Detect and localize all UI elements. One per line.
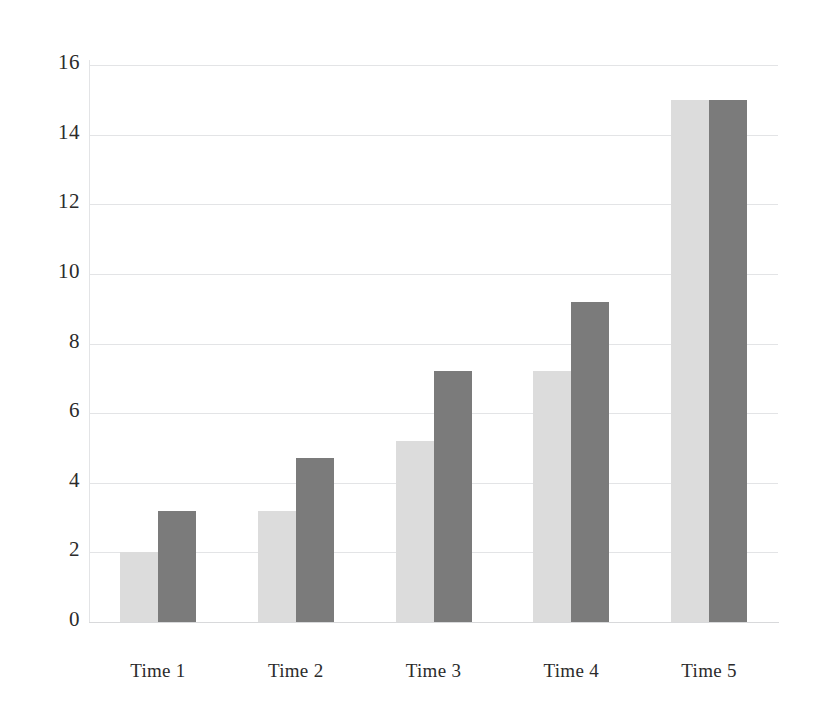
bar-group: [396, 60, 472, 622]
y-tick-label: 14: [8, 120, 80, 145]
y-axis-line: [89, 60, 90, 623]
y-tick-label: 0: [8, 607, 80, 632]
bar[interactable]: [396, 441, 434, 622]
bar-chart: 0246810121416 Time 1Time 2Time 3Time 4Ti…: [0, 0, 816, 718]
y-tick-label: 4: [8, 468, 80, 493]
y-tick-label: 6: [8, 398, 80, 423]
bar-group: [258, 60, 334, 622]
bar[interactable]: [533, 371, 571, 622]
bar[interactable]: [158, 511, 196, 622]
bar[interactable]: [671, 100, 709, 622]
bar[interactable]: [434, 371, 472, 622]
x-tick-label: Time 4: [502, 660, 640, 682]
y-tick-label: 2: [8, 537, 80, 562]
x-tick-label: Time 2: [227, 660, 365, 682]
bar[interactable]: [296, 458, 334, 622]
bar[interactable]: [120, 552, 158, 622]
bar-group: [671, 60, 747, 622]
y-tick-label: 8: [8, 329, 80, 354]
plot-area: [89, 60, 778, 622]
x-tick-label: Time 1: [89, 660, 227, 682]
y-tick-label: 10: [8, 259, 80, 284]
bar-group: [120, 60, 196, 622]
bar[interactable]: [709, 100, 747, 622]
bar[interactable]: [571, 302, 609, 622]
x-tick-label: Time 5: [640, 660, 778, 682]
bar-group: [533, 60, 609, 622]
y-tick-label: 12: [8, 189, 80, 214]
y-axis: 0246810121416: [0, 0, 80, 718]
y-tick-label: 16: [8, 50, 80, 75]
x-tick-label: Time 3: [365, 660, 503, 682]
bar[interactable]: [258, 511, 296, 622]
x-axis-line: [89, 622, 779, 623]
